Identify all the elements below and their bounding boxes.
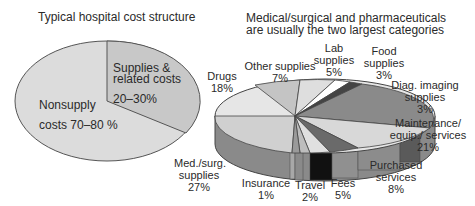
label-fees: Fees5% xyxy=(328,177,358,201)
label-food-supplies: Foodsupplies3% xyxy=(362,45,406,81)
label-travel: Travel2% xyxy=(292,179,328,203)
nonsupply-value: costs 70–80 % xyxy=(39,119,118,131)
right-chart-title-2: are usually the two largest categories xyxy=(246,24,444,36)
supplies-value: 20–30% xyxy=(113,93,157,105)
label-other-supplies: Other supplies7% xyxy=(240,60,320,84)
label-lab-supplies: Labsupplies5% xyxy=(312,42,356,78)
label-purchased-services: Purchasedservices8% xyxy=(366,159,426,195)
label-drugs: Drugs18% xyxy=(202,70,242,94)
label-maintenance: Maintenance/equip./ services21% xyxy=(383,117,473,153)
supplies-label-2: related costs xyxy=(113,73,181,85)
left-chart-title: Typical hospital cost structure xyxy=(38,11,195,23)
nonsupply-label: Nonsupply xyxy=(39,99,96,111)
label-insurance: Insurance1% xyxy=(240,177,292,201)
label-diag-imaging: Diag. imagingsupplies3% xyxy=(385,79,465,115)
label-med-surg: Med./surg.supplies27% xyxy=(174,157,224,193)
